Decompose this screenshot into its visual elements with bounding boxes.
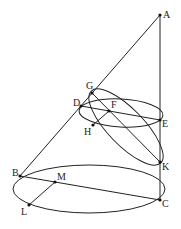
label-M: M (57, 171, 66, 182)
label-A: A (163, 9, 171, 20)
point-A (158, 13, 161, 16)
line-ML (29, 182, 55, 205)
label-E: E (162, 118, 168, 129)
base-circle (13, 165, 165, 213)
label-C: C (162, 198, 169, 209)
label-H: H (84, 126, 91, 137)
line-FH (93, 111, 109, 125)
label-G: G (86, 80, 93, 91)
point-G (90, 91, 93, 94)
label-B: B (12, 167, 19, 178)
point-H (91, 123, 94, 126)
label-L: L (21, 206, 27, 217)
cone-diagram: A G D F H E K B M L C (0, 0, 181, 229)
point-B (18, 174, 21, 177)
label-F: F (111, 99, 117, 110)
line-AB (20, 15, 160, 176)
line-DE (81, 106, 160, 120)
label-D: D (73, 97, 80, 108)
label-K: K (162, 161, 170, 172)
point-L (27, 203, 30, 206)
line-BC (20, 176, 160, 200)
